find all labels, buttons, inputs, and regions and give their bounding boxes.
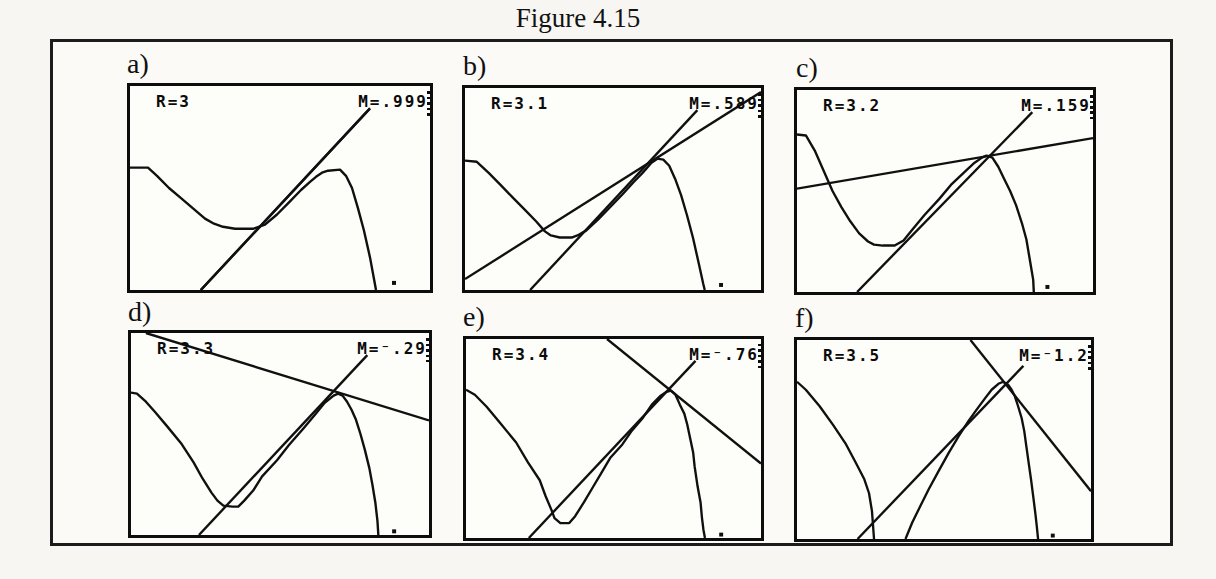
plot-area-f: [797, 340, 1091, 539]
r-value-text: R=3.3: [157, 341, 215, 357]
m-value-text: M=.159: [1021, 98, 1091, 114]
screen-edge-marks-icon: [758, 93, 762, 120]
screen-edge-marks-icon: [1090, 95, 1094, 122]
scanned-figure-page: { "chart_data": { "type": "line", "title…: [0, 0, 1216, 579]
screen-edge-marks-icon: [1088, 345, 1092, 372]
panel-label-b: b): [463, 52, 486, 80]
plot-area-b: [465, 88, 761, 290]
panel-label-d: d): [128, 298, 151, 326]
r-value-text: R=3.1: [491, 96, 549, 112]
calculator-screen-b: R=3.1 M=.589: [462, 85, 764, 293]
iterate-curve: [131, 393, 378, 535]
tangent-line: [465, 92, 761, 279]
figure-caption: Figure 4.15: [0, 3, 1156, 34]
calculator-screen-c: R=3.2 M=.159: [794, 87, 1096, 295]
plot-area-c: [797, 90, 1093, 292]
identity-line: [199, 355, 367, 535]
trace-dot: [392, 281, 396, 285]
screen-edge-marks-icon: [426, 338, 430, 365]
calculator-screen-a: R=3 M=.999: [127, 83, 433, 293]
iterate-curve: [130, 168, 376, 290]
identity-line: [857, 112, 1032, 292]
screen-edge-marks-icon: [427, 91, 431, 118]
calculator-screen-f: R=3.5 M=⁻1.2: [794, 337, 1094, 542]
trace-dot: [1045, 285, 1049, 289]
panel-label-c: c): [796, 54, 818, 82]
m-value-text: M=.999: [358, 94, 428, 110]
screen-edge-marks-icon: [758, 344, 762, 371]
identity-line: [858, 366, 1024, 539]
r-value-text: R=3.2: [823, 98, 881, 114]
panel-label-a: a): [127, 50, 149, 78]
iterate-curve: [465, 159, 705, 290]
m-value-text: M=.589: [689, 96, 759, 112]
iterate-curve: [905, 382, 1038, 539]
tangent-line: [797, 138, 1093, 189]
trace-dot: [1051, 534, 1055, 538]
r-value-text: R=3: [156, 94, 191, 110]
plot-area-d: [131, 333, 429, 535]
m-value-text: M=⁻.76: [689, 347, 759, 363]
r-value-text: R=3.4: [492, 347, 550, 363]
identity-line: [529, 361, 696, 538]
iterate-curve: [797, 382, 874, 539]
trace-dot: [392, 529, 396, 533]
m-value-text: M=⁻.29: [357, 341, 427, 357]
trace-dot: [719, 283, 723, 287]
calculator-screen-d: R=3.3 M=⁻.29: [128, 330, 432, 538]
r-value-text: R=3.5: [823, 348, 881, 364]
iterate-curve: [466, 390, 705, 538]
panel-label-f: f): [795, 304, 814, 332]
tangent-line: [201, 108, 370, 290]
panel-label-e: e): [463, 303, 485, 331]
iterate-curve: [797, 134, 1034, 292]
trace-dot: [719, 533, 723, 537]
m-value-text: M=⁻1.2: [1019, 348, 1089, 364]
plot-area-a: [130, 86, 430, 290]
calculator-screen-e: R=3.4 M=⁻.76: [463, 336, 764, 541]
identity-line: [530, 110, 697, 290]
plot-area-e: [466, 339, 761, 538]
